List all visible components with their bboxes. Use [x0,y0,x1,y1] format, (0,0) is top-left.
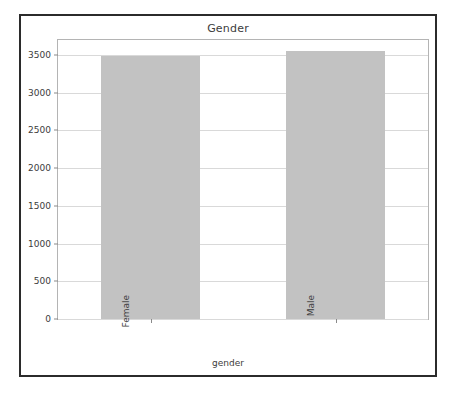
y-tick-mark [54,168,58,169]
y-tick-mark [54,319,58,320]
y-tick-mark [54,130,58,131]
y-tick-label: 3500 [28,50,51,60]
bar [286,51,386,319]
bar [101,56,201,319]
y-tick-mark [54,243,58,244]
y-tick-label: 2500 [28,125,51,135]
x-axis-title: gender [21,358,435,368]
gridline [58,319,428,320]
y-tick-mark [54,92,58,93]
y-tick-label: 500 [34,276,51,286]
x-tick-mark [336,319,337,323]
y-tick-label: 3000 [28,88,51,98]
y-tick-label: 2000 [28,163,51,173]
x-tick-label: Female [121,295,131,355]
y-tick-label: 1000 [28,239,51,249]
figure-frame: Gender 0500100015002000250030003500 Fema… [19,14,437,377]
y-tick-mark [54,55,58,56]
x-tick-mark [151,319,152,323]
chart-title: Gender [21,22,435,35]
y-tick-mark [54,281,58,282]
y-tick-mark [54,205,58,206]
x-tick-label: Male [306,295,316,355]
y-tick-label: 0 [45,314,51,324]
y-tick-label: 1500 [28,201,51,211]
plot-area: 0500100015002000250030003500 FemaleMale [57,39,429,320]
